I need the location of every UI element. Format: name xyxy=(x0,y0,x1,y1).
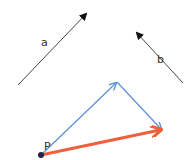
vector-a-label: a xyxy=(41,36,48,49)
vector-addition-diagram: a b P xyxy=(0,0,191,160)
vector-a-arrow xyxy=(18,14,86,85)
point-p-label: P xyxy=(44,140,51,153)
vector-b-label: b xyxy=(157,53,164,66)
vector-b-placed-arrow xyxy=(117,82,161,129)
vector-a-placed-arrow xyxy=(41,83,116,155)
resultant-vector-arrow xyxy=(41,130,160,155)
